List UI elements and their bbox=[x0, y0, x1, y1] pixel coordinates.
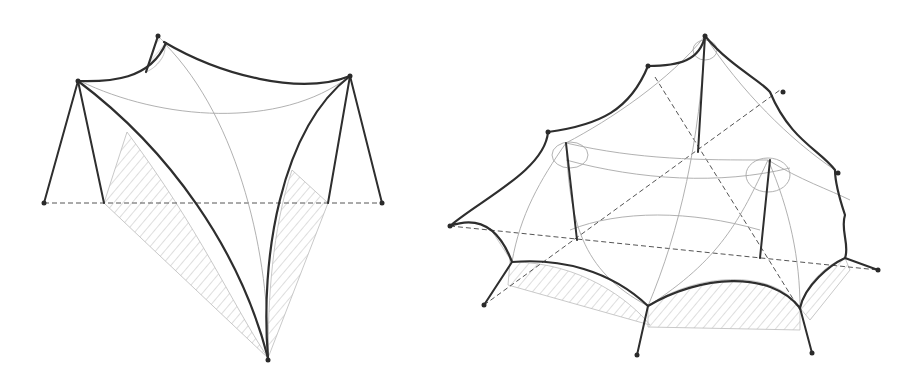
right-node-3 bbox=[448, 224, 453, 229]
right-ground-line-diag-2 bbox=[655, 77, 800, 310]
right-node-1 bbox=[646, 64, 651, 69]
left-edge-top-right bbox=[164, 42, 350, 84]
left-node-mast-right bbox=[348, 74, 353, 79]
left-node-top bbox=[156, 34, 161, 39]
left-membrane-curve-cross bbox=[80, 76, 350, 113]
left-shadow-hatch-left bbox=[104, 132, 268, 358]
diagram-canvas bbox=[0, 0, 919, 379]
right-node-4 bbox=[482, 303, 487, 308]
right-shadow-hatch-center bbox=[648, 279, 800, 330]
right-mast-center bbox=[698, 36, 705, 152]
right-stay-far-right bbox=[845, 258, 878, 270]
right-node-peak bbox=[703, 34, 708, 39]
left-stay-outer-left bbox=[44, 81, 78, 203]
right-node-5 bbox=[635, 353, 640, 358]
left-node-bottom bbox=[266, 358, 271, 363]
left-stay-outer-right bbox=[350, 76, 382, 203]
left-shadow-hatch-right bbox=[268, 170, 328, 358]
left-node-mast-left bbox=[76, 79, 81, 84]
right-mast-left bbox=[566, 143, 577, 240]
left-node-anchor-left bbox=[42, 201, 47, 206]
right-tensile-structure bbox=[448, 34, 881, 358]
right-node-9 bbox=[781, 90, 786, 95]
right-node-7 bbox=[876, 268, 881, 273]
left-node-anchor-right bbox=[380, 201, 385, 206]
right-node-8 bbox=[836, 171, 841, 176]
left-tensile-structure bbox=[42, 34, 385, 363]
left-mast-right bbox=[328, 76, 350, 203]
right-node-2 bbox=[546, 130, 551, 135]
right-node-6 bbox=[810, 351, 815, 356]
right-membrane-lines bbox=[512, 36, 850, 308]
